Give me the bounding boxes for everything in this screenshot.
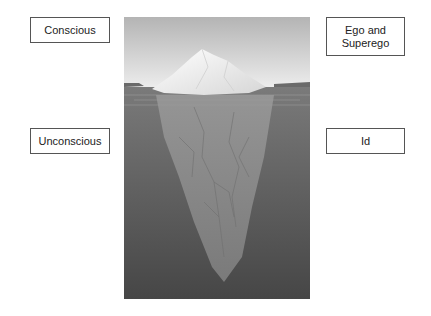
id-label: Id bbox=[326, 128, 405, 154]
unconscious-label-text: Unconscious bbox=[39, 135, 102, 148]
ego-superego-label: Ego and Superego bbox=[326, 17, 405, 56]
iceberg-illustration bbox=[124, 17, 310, 299]
unconscious-label: Unconscious bbox=[30, 128, 110, 154]
id-label-text: Id bbox=[361, 135, 370, 148]
conscious-label-text: Conscious bbox=[44, 24, 95, 37]
ego-superego-label-text: Ego and Superego bbox=[338, 24, 394, 50]
conscious-label: Conscious bbox=[30, 17, 110, 43]
